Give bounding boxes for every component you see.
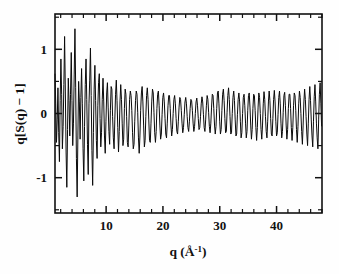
x-tick-label: 30 <box>213 218 226 233</box>
y-axis-title-group: q[S(q) − 1] <box>12 83 27 145</box>
y-tick-label: 1 <box>41 42 48 57</box>
x-tick-label: 40 <box>270 218 283 233</box>
x-tick-label: 20 <box>156 218 169 233</box>
plot-background <box>0 0 339 274</box>
figure-container: 10203040 -101 q (Å-1) q[S(q) − 1] <box>0 0 339 274</box>
y-tick-label: -1 <box>36 170 47 185</box>
x-tick-label: 10 <box>100 218 113 233</box>
y-axis-title: q[S(q) − 1] <box>12 83 27 145</box>
structure-factor-plot: 10203040 -101 q (Å-1) q[S(q) − 1] <box>0 0 339 274</box>
y-tick-label: 0 <box>41 106 48 121</box>
